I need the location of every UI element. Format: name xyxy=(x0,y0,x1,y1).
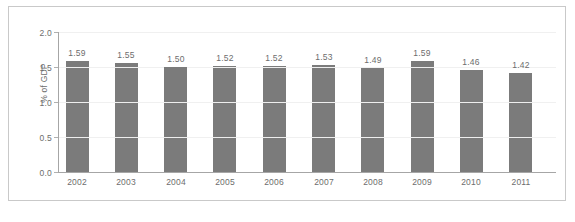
bar-gridline-overlay xyxy=(460,102,483,103)
bar-value-label-2009: 1.59 xyxy=(402,49,442,58)
x-tick-label-2009: 2009 xyxy=(402,178,442,187)
x-tick-label-2007: 2007 xyxy=(304,178,344,187)
bar-gridline-overlay xyxy=(460,137,483,138)
bar-gridline-overlay xyxy=(213,102,236,103)
bar-value-label-2006: 1.52 xyxy=(254,54,294,63)
x-tick-label-2011: 2011 xyxy=(501,178,541,187)
bar-2010[interactable] xyxy=(460,70,483,172)
bar-gridline-overlay xyxy=(361,137,384,138)
bar-gridline-overlay xyxy=(411,102,434,103)
bar-gridline-overlay xyxy=(213,67,236,68)
bar-2011[interactable] xyxy=(509,73,532,172)
bar-gridline-overlay xyxy=(361,102,384,103)
bar-2004[interactable] xyxy=(164,67,187,172)
bar-value-label-2008: 1.49 xyxy=(353,56,393,65)
bar-value-label-2003: 1.55 xyxy=(106,51,146,60)
bar-gridline-overlay xyxy=(115,137,138,138)
bar-gridline-overlay xyxy=(66,137,89,138)
bar-gridline-overlay xyxy=(312,102,335,103)
chart-figure: 2.0 1.5 1.0 0.5 0.0 % of GDP 1.5920021.5… xyxy=(0,0,575,222)
bar-value-label-2011: 1.42 xyxy=(501,61,541,70)
bar-value-label-2010: 1.46 xyxy=(451,58,491,67)
bar-value-label-2007: 1.53 xyxy=(304,53,344,62)
bar-gridline-overlay xyxy=(411,137,434,138)
x-tick-label-2005: 2005 xyxy=(205,178,245,187)
bar-gridline-overlay xyxy=(66,102,89,103)
bar-gridline-overlay xyxy=(164,137,187,138)
x-tick-label-2004: 2004 xyxy=(156,178,196,187)
bar-value-label-2004: 1.50 xyxy=(156,55,196,64)
bar-2009[interactable] xyxy=(411,61,434,172)
bar-gridline-overlay xyxy=(263,67,286,68)
bar-value-label-2002: 1.59 xyxy=(57,49,97,58)
x-tick-label-2010: 2010 xyxy=(451,178,491,187)
bar-gridline-overlay xyxy=(263,102,286,103)
bar-gridline-overlay xyxy=(411,67,434,68)
bar-gridline-overlay xyxy=(213,137,236,138)
x-tick-label-2008: 2008 xyxy=(353,178,393,187)
bar-2005[interactable] xyxy=(213,66,236,172)
bar-gridline-overlay xyxy=(66,67,89,68)
bar-value-label-2005: 1.52 xyxy=(205,54,245,63)
bar-gridline-overlay xyxy=(312,67,335,68)
bar-2006[interactable] xyxy=(263,66,286,172)
bar-2008[interactable] xyxy=(361,68,384,172)
bar-gridline-overlay xyxy=(509,102,532,103)
bar-2003[interactable] xyxy=(115,63,138,172)
bar-gridline-overlay xyxy=(164,102,187,103)
bar-gridline-overlay xyxy=(115,67,138,68)
bar-2007[interactable] xyxy=(312,65,335,172)
bar-2002[interactable] xyxy=(66,61,89,172)
x-tick-label-2002: 2002 xyxy=(57,178,97,187)
bars-layer: 1.5920021.5520031.5020041.5220051.522006… xyxy=(0,0,575,222)
bar-gridline-overlay xyxy=(263,137,286,138)
x-tick-label-2003: 2003 xyxy=(106,178,146,187)
bar-gridline-overlay xyxy=(509,137,532,138)
bar-gridline-overlay xyxy=(312,137,335,138)
x-tick-label-2006: 2006 xyxy=(254,178,294,187)
bar-gridline-overlay xyxy=(115,102,138,103)
